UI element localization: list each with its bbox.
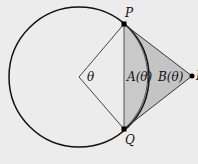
label-p: P: [124, 6, 134, 20]
radius-op: [79, 24, 124, 77]
label-b: B(θ): [157, 70, 184, 84]
radius-oq: [79, 77, 124, 129]
label-theta: θ: [87, 70, 95, 84]
point-p: [122, 22, 127, 27]
circle-tangent-diagram: P Q R θ A(θ) B(θ): [0, 0, 198, 164]
label-r: R: [195, 69, 198, 83]
label-q: Q: [125, 133, 135, 147]
label-a: A(θ): [126, 70, 153, 84]
point-r: [190, 74, 195, 79]
point-q: [122, 127, 127, 132]
